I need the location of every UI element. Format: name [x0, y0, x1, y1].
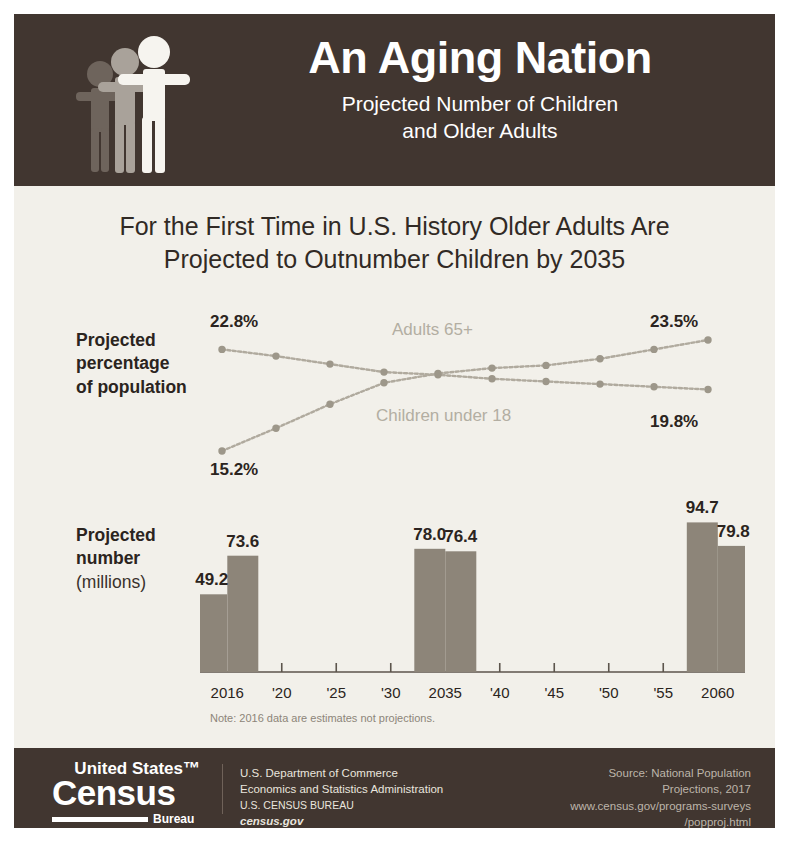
bar-chart-tick-label: 2016 [199, 684, 255, 701]
bar-value-label: 76.4 [441, 527, 481, 547]
census-gov-link[interactable]: census.gov [240, 813, 443, 828]
bar-chart-tick-label: 2060 [690, 684, 746, 701]
bar-2060-children [718, 546, 745, 672]
line-data-point [434, 370, 441, 377]
bar-chart-tick-label: '55 [635, 684, 691, 701]
line-series-adults [222, 340, 708, 451]
title-block: An Aging Nation Projected Number of Chil… [210, 34, 750, 145]
line-data-point [596, 355, 603, 362]
footer-band: United States™ Census Bureau U.S. Depart… [14, 748, 775, 828]
bar-chart-tick-label: '20 [254, 684, 310, 701]
line-data-point [326, 360, 333, 367]
infographic-poster: An Aging Nation Projected Number of Chil… [14, 14, 775, 828]
line-data-point [272, 425, 279, 432]
bar-chart-tick-label: '50 [581, 684, 637, 701]
source-line2: Projections, 2017 [570, 781, 751, 797]
department-block: U.S. Department of Commerce Economics an… [240, 765, 443, 828]
page-subtitle-line2: and Older Adults [210, 118, 750, 145]
bar-chart-tick-label: 2035 [417, 684, 473, 701]
bar-chart-tick-label: '30 [363, 684, 419, 701]
department-line1: U.S. Department of Commerce [240, 765, 443, 781]
census-logo-bureau: Bureau [153, 812, 194, 826]
census-logo-rule [52, 817, 148, 822]
department-line2: Economics and Statistics Administration [240, 781, 443, 797]
bar-2060-adults [687, 522, 718, 672]
source-line1: Source: National Population [570, 765, 751, 781]
bar-chart-tick-label: '25 [308, 684, 364, 701]
bar-value-label: 94.7 [682, 498, 722, 518]
line-data-point [488, 364, 495, 371]
bar-value-label: 73.6 [223, 532, 263, 552]
line-data-point [650, 346, 657, 353]
footer-divider [222, 764, 223, 814]
line-data-point [380, 368, 387, 375]
source-block: Source: National Population Projections,… [570, 765, 751, 828]
department-line3: U.S. CENSUS BUREAU [240, 798, 443, 813]
bar-value-label: 49.2 [192, 570, 232, 590]
line-data-point [218, 346, 225, 353]
chart-note: Note: 2016 data are estimates not projec… [210, 712, 435, 724]
line-data-point [272, 352, 279, 359]
census-logo: United States™ Census Bureau [52, 760, 204, 828]
line-data-point [596, 380, 603, 387]
bar-2016-adults [200, 594, 227, 672]
three-people-icon-svg [76, 30, 196, 174]
line-data-point [650, 383, 657, 390]
line-data-point [542, 362, 549, 369]
bar-value-label: 79.8 [713, 522, 753, 542]
source-line3[interactable]: www.census.gov/programs-surveys [570, 798, 751, 814]
line-data-point [542, 378, 549, 385]
line-data-point [704, 336, 711, 343]
line-series-children [222, 349, 708, 389]
page-subtitle-line1: Projected Number of Children [210, 91, 750, 118]
bar-2035-adults [414, 549, 445, 672]
census-logo-rule-row: Bureau [52, 810, 204, 828]
children-start-percent-label: 22.8% [210, 312, 258, 332]
adults-start-percent-label: 15.2% [210, 460, 258, 480]
line-data-point [218, 447, 225, 454]
line-data-point [488, 375, 495, 382]
body-area: For the First Time in U.S. History Older… [14, 186, 775, 748]
bar-chart-tick-label: '45 [526, 684, 582, 701]
header-band: An Aging Nation Projected Number of Chil… [14, 14, 775, 186]
line-data-point [380, 379, 387, 386]
page-title: An Aging Nation [210, 34, 750, 81]
bar-2035-children [445, 551, 476, 672]
bar-chart-tick-label: '40 [472, 684, 528, 701]
three-people-icon [76, 30, 196, 174]
headline-line2: Projected to Outnumber Children by 2035 [54, 243, 735, 276]
source-line4[interactable]: /popproj.html [570, 814, 751, 828]
adults-end-percent-label: 23.5% [650, 312, 698, 332]
page-subtitle: Projected Number of Children and Older A… [210, 91, 750, 145]
census-logo-census: Census [52, 776, 204, 810]
line-data-point [704, 386, 711, 393]
headline-line1: For the First Time in U.S. History Older… [54, 210, 735, 243]
bar-2016-children [227, 556, 258, 672]
legend-children-under-18: Children under 18 [376, 406, 511, 426]
headline: For the First Time in U.S. History Older… [54, 210, 735, 276]
children-end-percent-label: 19.8% [650, 412, 698, 432]
line-data-point [326, 401, 333, 408]
legend-adults-65-plus: Adults 65+ [392, 320, 473, 340]
